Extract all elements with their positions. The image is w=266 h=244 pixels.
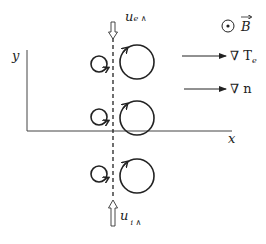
electron-flow-subscript: e ∧	[133, 14, 146, 23]
electron-flow-arrow-icon	[109, 22, 118, 39]
orbit-row-1	[91, 45, 154, 79]
x-axis-label: x	[228, 132, 235, 145]
ion-flow-label: ui ∧	[120, 209, 139, 222]
axes	[27, 50, 232, 131]
temperature-gradient-text: ∇ T	[230, 48, 252, 63]
orbit-row-2	[91, 101, 154, 135]
orbit-row-3	[91, 159, 154, 193]
ion-flow-subscript: i ∧	[130, 218, 141, 227]
ion-flow-arrow-icon	[109, 200, 118, 226]
diagram-canvas	[0, 0, 266, 244]
magnetic-field-label: B	[241, 20, 251, 33]
temperature-gradient-subscript: e	[252, 56, 257, 65]
density-gradient-label: ∇ n	[230, 82, 252, 95]
temperature-gradient-label: ∇ Te	[230, 49, 257, 62]
electron-flow-label: ue ∧	[125, 10, 147, 23]
magnetic-field-out-icon	[222, 20, 234, 32]
y-axis-label: y	[12, 49, 19, 62]
ion-flow-symbol: u	[120, 208, 128, 223]
